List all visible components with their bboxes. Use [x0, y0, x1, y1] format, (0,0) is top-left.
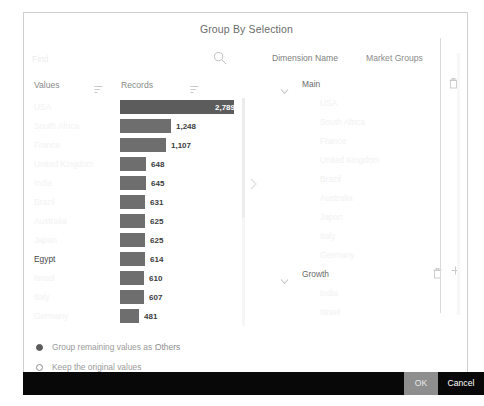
dialog-footer: OK Cancel	[23, 372, 484, 395]
table-row[interactable]: France1,107	[32, 136, 238, 155]
row-value-label: Italy	[34, 292, 49, 302]
groups-panel: Dimension Name Market Groups MainUSASout…	[272, 51, 464, 336]
row-value-label: Brazil	[34, 197, 55, 207]
screen: Group By Selection Values	[0, 0, 484, 406]
row-value-label: France	[34, 140, 60, 150]
group-child-row[interactable]: Australia	[272, 189, 464, 208]
row-bar-area: 625	[120, 214, 238, 228]
row-bar-area: 648	[120, 157, 238, 171]
chevron-down-icon[interactable]	[280, 271, 289, 278]
table-row[interactable]: Australia625	[32, 212, 238, 231]
table-row[interactable]: Germany481	[32, 307, 238, 326]
values-list[interactable]: USA2,789South Africa1,248France1,107Unit…	[32, 98, 238, 326]
table-row[interactable]: Brazil631	[32, 193, 238, 212]
table-row[interactable]: South Africa1,248	[32, 117, 238, 136]
row-value-label: Japan	[34, 235, 57, 245]
row-bar	[120, 157, 146, 171]
group-child-label: Germany	[320, 250, 354, 260]
group-child-label: Australia	[320, 193, 353, 203]
row-bar	[120, 119, 171, 133]
option-group-remaining[interactable]: Group remaining values as : Others	[32, 339, 332, 359]
table-row[interactable]: Japan625	[32, 231, 238, 250]
row-bar-area: 631	[120, 195, 238, 209]
table-row[interactable]: USA2,789	[32, 98, 238, 117]
column-header-records: Records	[121, 80, 153, 90]
group-child-row[interactable]: Israel	[272, 303, 464, 322]
option-group-remaining-value[interactable]: Others	[155, 342, 180, 352]
group-child-row[interactable]: Italy	[272, 227, 464, 246]
group-child-row[interactable]: USA	[272, 94, 464, 113]
group-child-row[interactable]: France	[272, 132, 464, 151]
row-bar-area: 2,789	[120, 100, 238, 114]
row-record-count: 648	[151, 160, 164, 169]
group-child-label: Italy	[320, 231, 335, 241]
group-row[interactable]: Growth	[272, 265, 464, 284]
dimension-name-value[interactable]: Market Groups	[366, 53, 423, 63]
groups-panel-scrollbar[interactable]	[457, 53, 460, 315]
row-value-label: India	[34, 178, 52, 188]
row-value-label: Egypt	[34, 254, 55, 264]
column-header-values: Values	[34, 80, 60, 90]
radio-keep-original[interactable]	[36, 364, 43, 371]
row-bar-area: 625	[120, 233, 238, 247]
group-child-label: Brazil	[320, 174, 341, 184]
row-value-label: Germany	[34, 311, 68, 321]
group-child-row[interactable]: India	[272, 284, 464, 303]
radio-group-remaining[interactable]	[36, 344, 43, 351]
row-record-count: 625	[150, 217, 163, 226]
row-bar	[120, 214, 145, 228]
dialog-title: Group By Selection	[24, 23, 469, 35]
dimension-name-label: Dimension Name	[272, 53, 338, 63]
groups-tree[interactable]: MainUSASouth AfricaFranceUnited KingdomB…	[272, 75, 464, 333]
group-child-label: United Kingdom	[320, 155, 380, 165]
values-list-scrollbar[interactable]	[242, 98, 245, 326]
group-row[interactable]: Main	[272, 75, 464, 94]
row-record-count: 1,248	[176, 122, 196, 131]
table-row[interactable]: Israel610	[32, 269, 238, 288]
sort-filter-icon-values[interactable]	[94, 80, 103, 89]
move-to-group-icon[interactable]	[247, 176, 261, 192]
cancel-button[interactable]: Cancel	[440, 372, 482, 395]
ok-button[interactable]: OK	[404, 372, 438, 395]
row-bar	[120, 252, 145, 266]
table-row[interactable]: United Kingdom648	[32, 155, 238, 174]
group-child-label: USA	[320, 98, 337, 108]
group-child-label: India	[320, 288, 338, 298]
group-child-label: France	[320, 136, 346, 146]
search-input[interactable]	[32, 51, 210, 67]
row-record-count: 625	[150, 236, 163, 245]
group-child-row[interactable]: South Africa	[272, 113, 464, 132]
group-child-row[interactable]: United Kingdom	[272, 151, 464, 170]
group-name-label: Growth	[302, 269, 329, 279]
row-bar-area: 1,248	[120, 119, 238, 133]
sort-filter-icon-records[interactable]	[190, 80, 199, 89]
group-child-row[interactable]: Germany	[272, 246, 464, 265]
row-bar	[120, 290, 144, 304]
row-record-count: 631	[150, 198, 163, 207]
group-child-label: Japan	[320, 212, 343, 222]
row-value-label: Australia	[34, 216, 67, 226]
group-name-label: Main	[302, 79, 320, 89]
panel-divider	[440, 38, 441, 313]
group-by-selection-dialog: Group By Selection Values	[23, 12, 468, 389]
search-icon[interactable]	[213, 51, 227, 65]
table-row[interactable]: India645	[32, 174, 238, 193]
row-bar	[120, 176, 146, 190]
group-child-label: Israel	[320, 307, 340, 317]
row-value-label: South Africa	[34, 121, 79, 131]
row-bar-area: 1,107	[120, 138, 238, 152]
row-bar-area: 607	[120, 290, 238, 304]
table-row[interactable]: Italy607	[32, 288, 238, 307]
row-record-count: 645	[151, 179, 164, 188]
row-bar-area: 481	[120, 309, 238, 323]
row-record-count: 614	[150, 255, 163, 264]
table-row[interactable]: Egypt614	[32, 250, 238, 269]
group-child-row[interactable]: Japan	[272, 208, 464, 227]
chevron-down-icon[interactable]	[280, 81, 289, 88]
option-group-remaining-label: Group remaining values as :	[52, 342, 157, 352]
values-list-scroll-thumb[interactable]	[242, 98, 245, 218]
group-child-row[interactable]: Brazil	[272, 170, 464, 189]
row-value-label: United Kingdom	[34, 159, 94, 169]
row-bar	[120, 195, 145, 209]
find-row	[32, 51, 234, 71]
